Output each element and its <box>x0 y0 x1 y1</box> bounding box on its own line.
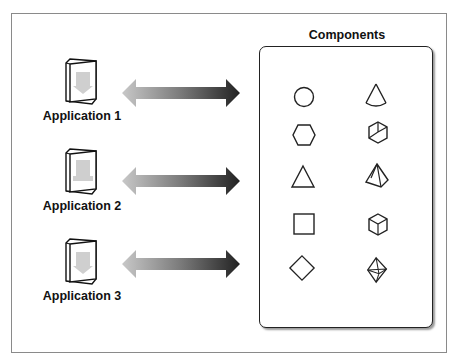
application-label: Application 1 <box>27 109 137 123</box>
hexagon-icon <box>290 121 318 149</box>
octahedron-icon <box>364 256 392 284</box>
application-box-icon <box>62 147 102 197</box>
square-icon <box>290 210 318 238</box>
double-arrow-icon <box>122 78 240 108</box>
components-panel <box>259 46 433 328</box>
application-box-icon <box>62 237 102 287</box>
application-1: Application 1 <box>27 57 137 123</box>
double-arrow-icon <box>122 166 240 196</box>
double-arrow-icon <box>122 249 240 279</box>
components-title: Components <box>258 28 436 42</box>
application-label: Application 3 <box>27 289 137 303</box>
cube-icon <box>364 211 392 239</box>
application-3: Application 3 <box>27 237 137 303</box>
application-label: Application 2 <box>27 199 137 213</box>
cone-icon <box>362 81 390 109</box>
triangle-icon <box>289 163 317 191</box>
diamond-icon <box>288 254 316 282</box>
pyramid-icon <box>363 162 391 190</box>
circle-icon <box>290 83 318 111</box>
application-2: Application 2 <box>27 147 137 213</box>
cube-wireframe-icon <box>364 119 392 147</box>
application-box-icon <box>62 57 102 107</box>
